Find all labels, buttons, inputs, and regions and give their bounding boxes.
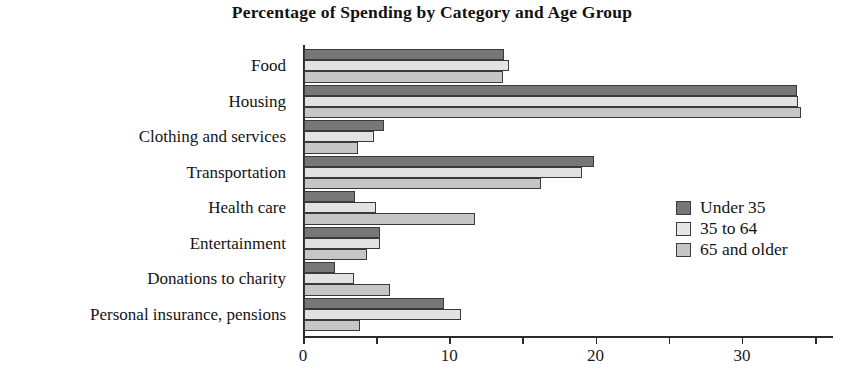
x-tick-30 <box>742 337 744 344</box>
bar <box>304 298 444 309</box>
category-label: Health care <box>208 199 286 216</box>
bar <box>304 167 582 178</box>
category-label: Housing <box>228 93 286 110</box>
bar <box>304 249 367 260</box>
x-tick-0 <box>303 337 305 344</box>
bar <box>304 156 594 167</box>
legend-swatch-icon <box>676 243 691 257</box>
x-tick-15 <box>522 337 524 344</box>
bar <box>304 60 509 71</box>
legend-item: 65 and older <box>676 239 787 260</box>
category-label: Donations to charity <box>147 270 286 287</box>
chart-legend: Under 3535 to 6465 and older <box>676 197 787 260</box>
bar <box>304 142 358 153</box>
bar <box>304 213 475 224</box>
x-tick-label-10: 10 <box>441 346 458 366</box>
bar <box>304 131 374 142</box>
bar <box>304 320 360 331</box>
category-label: Transportation <box>187 164 287 181</box>
bar <box>304 227 380 238</box>
bar <box>304 71 503 82</box>
x-axis-line <box>303 336 833 338</box>
bar <box>304 178 541 189</box>
category-label: Personal insurance, pensions <box>90 306 286 323</box>
bar <box>304 191 355 202</box>
legend-item: Under 35 <box>676 197 787 218</box>
plot-area: 0102030 <box>303 45 843 335</box>
bar <box>304 273 354 284</box>
legend-item: 35 to 64 <box>676 218 787 239</box>
legend-swatch-icon <box>676 222 691 236</box>
bar <box>304 96 798 107</box>
bar <box>304 202 376 213</box>
category-label: Clothing and services <box>139 128 286 145</box>
legend-swatch-icon <box>676 201 691 215</box>
bar <box>304 107 801 118</box>
x-tick-label-0: 0 <box>299 346 308 366</box>
x-tick-label-20: 20 <box>587 346 604 366</box>
bar <box>304 284 390 295</box>
bar <box>304 309 461 320</box>
x-tick-10 <box>449 337 451 344</box>
bar <box>304 120 384 131</box>
legend-label: 35 to 64 <box>700 218 757 239</box>
category-label: Entertainment <box>190 235 286 252</box>
bar-chart: Percentage of Spending by Category and A… <box>0 0 864 375</box>
bar <box>304 238 380 249</box>
x-tick-label-30: 30 <box>733 346 750 366</box>
bar <box>304 85 797 96</box>
x-tick-25 <box>669 337 671 344</box>
legend-label: 65 and older <box>700 239 787 260</box>
legend-label: Under 35 <box>700 197 766 218</box>
category-label: Food <box>251 57 286 74</box>
x-tick-5 <box>376 337 378 344</box>
x-tick-20 <box>596 337 598 344</box>
bar <box>304 262 335 273</box>
chart-title: Percentage of Spending by Category and A… <box>0 2 864 23</box>
x-tick-35 <box>815 337 817 344</box>
bar <box>304 49 504 60</box>
